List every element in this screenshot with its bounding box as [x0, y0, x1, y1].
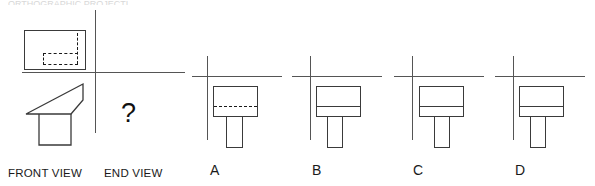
option-c-stem	[434, 117, 450, 148]
option-a-stem	[226, 117, 243, 148]
option-a-fold-line-horizontal	[192, 76, 282, 77]
option-c-internal-solid-line	[420, 106, 463, 107]
option-c-fold-line-horizontal	[394, 76, 484, 77]
option-c-fold-line-vertical	[412, 56, 413, 140]
front-view-label: FRONT VIEW	[8, 167, 82, 179]
option-c[interactable]: C	[390, 0, 490, 186]
option-b-fold-line-horizontal	[292, 76, 382, 77]
option-b[interactable]: B	[290, 0, 390, 186]
option-d[interactable]: D	[490, 0, 595, 186]
option-a-body-outline	[213, 86, 258, 117]
drawing-sheet: ORTHOGRAPHIC PROJECTION ? FRONT VIEW END…	[0, 0, 595, 186]
option-a-label: A	[210, 162, 219, 178]
option-d-body-outline	[519, 86, 564, 117]
option-c-label: C	[413, 162, 423, 178]
option-d-internal-solid-line	[520, 106, 563, 107]
unknown-view-question-mark: ?	[121, 100, 136, 127]
given-views-group: ? FRONT VIEW END VIEW	[0, 0, 190, 186]
option-b-fold-line-vertical	[310, 56, 311, 140]
option-d-label: D	[515, 162, 525, 178]
end-view-label: END VIEW	[104, 167, 162, 179]
option-d-stem	[530, 117, 546, 148]
option-b-stem	[327, 117, 343, 148]
option-d-fold-line-horizontal	[495, 76, 585, 77]
top-view-hidden-line-horizontal-lower	[43, 64, 78, 65]
top-view-hidden-line-horizontal-upper	[43, 53, 78, 54]
option-b-internal-solid-line	[317, 106, 360, 107]
option-a[interactable]: A	[190, 0, 290, 186]
option-c-body-outline	[419, 86, 464, 117]
option-a-fold-line-vertical	[207, 56, 208, 140]
option-b-body-outline	[316, 86, 361, 117]
option-a-internal-dashed-line	[214, 106, 257, 107]
top-view-hidden-line-vertical	[77, 33, 78, 64]
option-b-label: B	[312, 162, 321, 178]
horizontal-fold-line	[22, 72, 185, 73]
option-d-fold-line-vertical	[513, 56, 514, 140]
